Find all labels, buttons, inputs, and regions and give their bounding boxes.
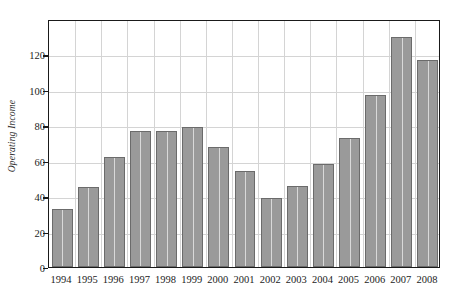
y-axis-tick-mark — [43, 55, 48, 56]
bar-inner-gridline — [428, 61, 429, 266]
bar — [391, 37, 412, 267]
x-axis-tick-label: 2001 — [234, 274, 255, 285]
plot-area — [48, 20, 440, 268]
bar-inner-gridline — [376, 96, 377, 266]
bar — [235, 171, 256, 267]
x-axis-tick-label: 1996 — [103, 274, 124, 285]
bar — [417, 60, 438, 267]
bar-inner-gridline — [245, 172, 246, 266]
bar-inner-gridline — [62, 210, 63, 266]
bar-inner-gridline — [350, 139, 351, 266]
x-axis-tick-label: 2007 — [390, 274, 411, 285]
bar-chart: Operating Income 020406080100120 1994199… — [0, 0, 460, 300]
y-axis-title-label: Operating Income — [7, 100, 17, 173]
x-axis-tick-label: 2003 — [286, 274, 307, 285]
x-axis-tick-label: 2008 — [416, 274, 437, 285]
y-axis-tick-mark — [43, 126, 48, 127]
bar-inner-gridline — [402, 38, 403, 266]
bar — [78, 187, 99, 267]
bar — [130, 131, 151, 267]
bar-inner-gridline — [193, 128, 194, 266]
x-axis-tick-label: 1997 — [129, 274, 150, 285]
x-axis-tick-labels: 1994199519961997199819992000200120022003… — [48, 274, 440, 294]
x-axis-tick-label: 2004 — [312, 274, 333, 285]
bar-inner-gridline — [140, 132, 141, 266]
y-axis-tick-labels: 020406080100120 — [18, 20, 45, 268]
bars-layer — [49, 21, 439, 267]
bar-inner-gridline — [271, 199, 272, 266]
y-axis-tick-mark — [43, 162, 48, 163]
x-axis-tick-label: 1999 — [181, 274, 202, 285]
bar-inner-gridline — [297, 187, 298, 266]
bar-inner-gridline — [167, 132, 168, 266]
bar — [104, 157, 125, 267]
bar-inner-gridline — [219, 148, 220, 266]
bar-inner-gridline — [114, 158, 115, 266]
y-axis-tick-mark — [43, 233, 48, 234]
bar-inner-gridline — [88, 188, 89, 266]
x-axis-tick-label: 1998 — [155, 274, 176, 285]
bar — [313, 164, 334, 267]
bar — [287, 186, 308, 267]
y-axis-tick-mark — [43, 268, 48, 269]
x-axis-tick-label: 1995 — [77, 274, 98, 285]
bar — [208, 147, 229, 267]
bar — [156, 131, 177, 267]
x-axis-tick-label: 2002 — [260, 274, 281, 285]
y-axis-tick-mark — [43, 91, 48, 92]
bar-inner-gridline — [323, 165, 324, 266]
bar — [182, 127, 203, 267]
bar — [52, 209, 73, 267]
bar — [365, 95, 386, 267]
x-axis-tick-label: 1994 — [51, 274, 72, 285]
x-axis-tick-label: 2005 — [338, 274, 359, 285]
y-axis-tick-mark — [43, 197, 48, 198]
bar — [339, 138, 360, 267]
bar — [261, 198, 282, 267]
x-axis-tick-label: 2006 — [364, 274, 385, 285]
x-axis-tick-label: 2000 — [207, 274, 228, 285]
